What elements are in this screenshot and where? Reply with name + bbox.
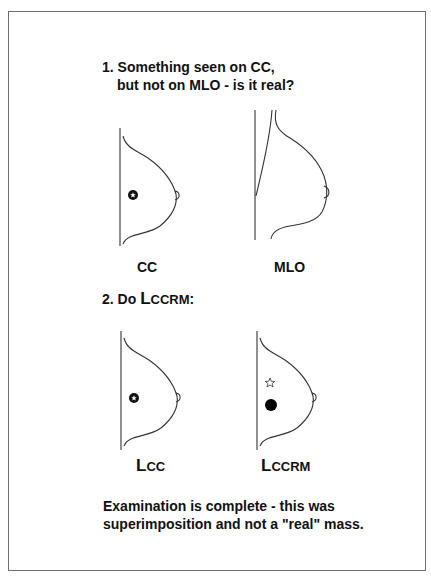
- lcc-label-rest: CC: [146, 459, 165, 474]
- mass-star-circle-icon: [129, 393, 139, 403]
- step2-small-caps: CCRM: [151, 292, 190, 307]
- lccrm-label-big: L: [261, 456, 271, 475]
- cc-label-text: CC: [137, 259, 157, 275]
- filled-mass-icon: [265, 399, 277, 411]
- step2-prefix: 2. Do: [102, 291, 140, 307]
- cc-view-drawing: [120, 128, 179, 246]
- lccrm-view-drawing: [257, 331, 316, 450]
- outline-star-icon: [265, 378, 275, 387]
- lcc-label-big: L: [136, 456, 146, 475]
- lcc-view-drawing: [121, 331, 180, 450]
- lccrm-label-rest: CCRM: [271, 459, 310, 474]
- conclusion-line1: Examination is complete - this was: [103, 497, 335, 515]
- lcc-label: LCC: [136, 456, 165, 476]
- step2-heading: 2. Do LCCRM:: [102, 290, 194, 309]
- mlo-label: MLO: [274, 259, 305, 275]
- conclusion-line2: superimposition and not a "real" mass.: [103, 515, 364, 533]
- mlo-view-drawing: [255, 110, 329, 240]
- step2-big-letter: L: [140, 289, 150, 308]
- cc-label: CC: [137, 259, 157, 275]
- breast-diagrams: [0, 0, 431, 580]
- lccrm-label: LCCRM: [261, 456, 310, 476]
- step2-suffix: :: [190, 291, 195, 307]
- mass-star-circle-icon: [128, 190, 138, 200]
- mlo-label-text: MLO: [274, 259, 305, 275]
